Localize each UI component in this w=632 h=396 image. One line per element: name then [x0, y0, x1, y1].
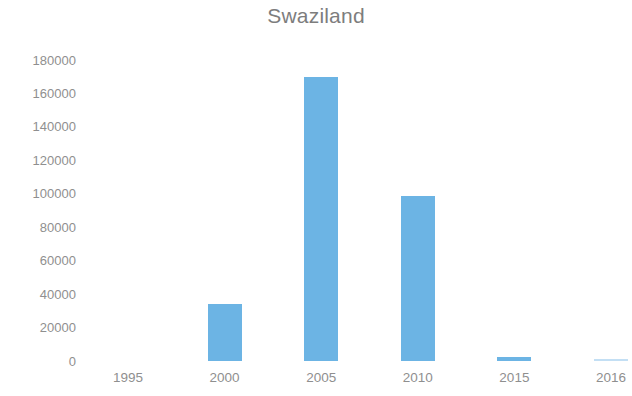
bar-2016[interactable]	[594, 359, 628, 361]
x-axis-tick-label: 2000	[177, 371, 273, 385]
y-axis-tick-label: 0	[0, 355, 76, 368]
bar-2000[interactable]	[208, 304, 242, 361]
y-axis-tick-label: 60000	[0, 254, 76, 267]
y-axis-tick-label: 20000	[0, 321, 76, 334]
bar-chart: Swaziland 020000400006000080000100000120…	[0, 0, 632, 396]
y-axis-tick-label: 160000	[0, 87, 76, 100]
y-axis-tick-label: 180000	[0, 54, 76, 67]
y-axis-tick-label: 40000	[0, 288, 76, 301]
plot-area: 0200004000060000800001000001200001400001…	[0, 0, 632, 396]
y-axis-tick-label: 100000	[0, 187, 76, 200]
x-axis-tick-label: 2015	[466, 371, 562, 385]
x-axis-tick-label: 2010	[370, 371, 466, 385]
x-axis-tick-label: 1995	[80, 371, 176, 385]
y-axis-tick-label: 80000	[0, 221, 76, 234]
y-axis-tick-label: 120000	[0, 154, 76, 167]
bar-2005[interactable]	[304, 77, 338, 361]
y-axis-tick-label: 140000	[0, 120, 76, 133]
x-axis-tick-label: 2005	[273, 371, 369, 385]
bar-2015[interactable]	[497, 357, 531, 361]
x-axis-tick-label: 2016	[563, 371, 632, 385]
bar-2010[interactable]	[401, 196, 435, 361]
